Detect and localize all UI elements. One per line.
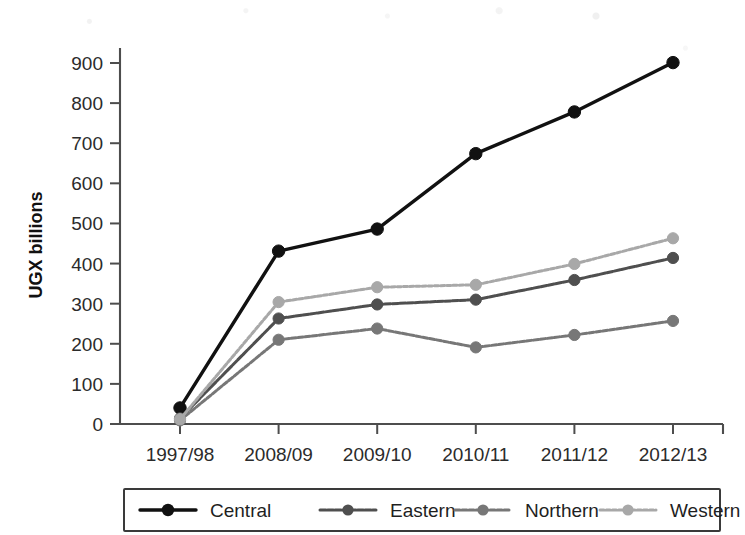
series-line-western xyxy=(180,238,673,419)
series-northern xyxy=(174,315,678,426)
series-western xyxy=(174,233,678,425)
legend-label-northern: Northern xyxy=(525,500,599,521)
y-axis-ticks xyxy=(110,63,120,424)
line-chart: 0100200300400500600700800900 1997/982008… xyxy=(0,0,745,535)
legend-marker-eastern xyxy=(342,504,353,515)
data-point-northern-2010-11 xyxy=(470,342,481,353)
data-point-northern-2008-09 xyxy=(273,334,284,345)
x-tick-label: 1997/98 xyxy=(146,444,215,465)
data-point-western-2011-12 xyxy=(569,258,580,269)
y-tick-label: 700 xyxy=(71,133,103,154)
y-tick-label: 500 xyxy=(71,213,103,234)
data-point-western-2012-13 xyxy=(667,233,678,244)
series-central xyxy=(174,56,679,414)
chart-axes xyxy=(120,48,723,434)
data-point-northern-2011-12 xyxy=(569,329,580,340)
chart-canvas: 0100200300400500600700800900 1997/982008… xyxy=(0,0,745,535)
y-tick-label: 800 xyxy=(71,93,103,114)
x-tick-label: 2012/13 xyxy=(639,444,708,465)
x-tick-label: 2008/09 xyxy=(244,444,313,465)
legend-label-eastern: Eastern xyxy=(390,500,455,521)
legend-marker-northern xyxy=(477,504,488,515)
data-point-eastern-2008-09 xyxy=(273,313,284,324)
y-axis-tick-labels: 0100200300400500600700800900 xyxy=(71,53,103,435)
data-point-eastern-2009-10 xyxy=(372,299,383,310)
data-point-western-2008-09 xyxy=(273,296,284,307)
data-point-central-2009-10 xyxy=(371,223,383,235)
x-axis-tick-labels: 1997/982008/092009/102010/112011/122012/… xyxy=(146,444,708,465)
series-line-central xyxy=(180,63,673,408)
y-tick-label: 100 xyxy=(71,374,103,395)
legend-marker-western xyxy=(622,504,633,515)
y-tick-label: 900 xyxy=(71,53,103,74)
legend-marker-central xyxy=(162,504,174,516)
y-tick-label: 0 xyxy=(92,414,103,435)
data-point-western-1997-98 xyxy=(174,414,185,425)
y-tick-label: 200 xyxy=(71,334,103,355)
x-tick-label: 2010/11 xyxy=(442,444,509,465)
data-point-northern-2012-13 xyxy=(667,315,678,326)
chart-legend: CentralEasternNorthernWestern xyxy=(124,489,740,531)
data-point-central-2012-13 xyxy=(667,56,679,68)
data-point-western-2009-10 xyxy=(372,282,383,293)
data-point-eastern-2011-12 xyxy=(569,274,580,285)
y-axis-title: UGX billions xyxy=(26,191,46,298)
data-point-eastern-2012-13 xyxy=(667,252,678,263)
x-axis-ticks xyxy=(180,424,673,434)
y-tick-label: 300 xyxy=(71,294,103,315)
x-tick-label: 2011/12 xyxy=(541,444,608,465)
legend-label-central: Central xyxy=(210,500,271,521)
data-point-eastern-2010-11 xyxy=(470,294,481,305)
x-tick-label: 2009/10 xyxy=(343,444,412,465)
data-point-central-2010-11 xyxy=(470,147,482,159)
y-tick-label: 600 xyxy=(71,173,103,194)
series-layer xyxy=(174,56,679,426)
data-point-central-2008-09 xyxy=(272,245,284,257)
data-point-northern-2009-10 xyxy=(372,323,383,334)
data-point-western-2010-11 xyxy=(470,279,481,290)
y-tick-label: 400 xyxy=(71,254,103,275)
data-point-central-2011-12 xyxy=(568,106,580,118)
legend-label-western: Western xyxy=(670,500,740,521)
series-line-northern xyxy=(180,321,673,420)
